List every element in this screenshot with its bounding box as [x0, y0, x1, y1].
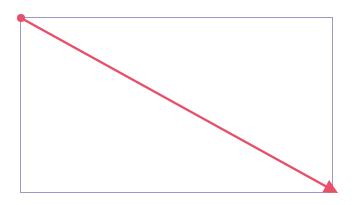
arrow-start-dot	[17, 14, 25, 22]
diagram-canvas	[0, 0, 359, 205]
diagonal-arrow-line	[21, 18, 326, 186]
